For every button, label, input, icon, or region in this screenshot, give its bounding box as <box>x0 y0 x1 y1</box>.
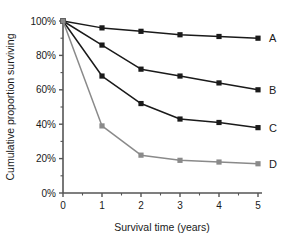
series-label-A: A <box>269 32 277 44</box>
series-line-A <box>63 21 258 38</box>
survival-curve-figure: 0%20%40%60%80%100% 012345 ABCD Survival … <box>0 0 291 242</box>
data-point-A-1 <box>99 25 104 30</box>
x-axis-tick-labels: 012345 <box>60 200 261 211</box>
y-tick-label: 0% <box>42 188 57 199</box>
series-D <box>60 18 260 166</box>
y-tick-label: 100% <box>30 16 56 27</box>
x-tick-label: 4 <box>216 200 222 211</box>
x-tick-label: 0 <box>60 200 66 211</box>
data-point-C-4 <box>216 120 221 125</box>
x-tick-label: 1 <box>99 200 105 211</box>
data-point-A-3 <box>177 32 182 37</box>
data-point-A-5 <box>255 36 260 41</box>
data-point-B-1 <box>99 42 104 47</box>
x-tick-label: 2 <box>138 200 144 211</box>
data-point-A-4 <box>216 34 221 39</box>
x-axis-title: Survival time (years) <box>114 221 210 233</box>
data-point-A-2 <box>138 29 143 34</box>
series-label-C: C <box>269 122 277 134</box>
series-label-group: ABCD <box>269 32 277 170</box>
series-label-D: D <box>269 158 277 170</box>
data-point-C-5 <box>255 125 260 130</box>
series-C <box>60 18 260 130</box>
data-point-B-5 <box>255 87 260 92</box>
x-tick-label: 3 <box>177 200 183 211</box>
y-tick-label: 40% <box>36 119 56 130</box>
series-label-B: B <box>269 84 276 96</box>
data-point-D-5 <box>255 161 260 166</box>
chart-canvas: 0%20%40%60%80%100% 012345 ABCD Survival … <box>0 0 291 242</box>
series-line-D <box>63 21 258 164</box>
data-point-D-4 <box>216 159 221 164</box>
data-point-B-3 <box>177 73 182 78</box>
data-point-D-1 <box>99 123 104 128</box>
data-point-B-2 <box>138 67 143 72</box>
data-point-D-2 <box>138 153 143 158</box>
y-axis-title: Cumulative proportion surviving <box>4 33 16 180</box>
data-series-group <box>60 18 260 166</box>
data-point-B-4 <box>216 80 221 85</box>
data-point-C-1 <box>99 73 104 78</box>
series-B <box>60 18 260 92</box>
series-line-B <box>63 21 258 90</box>
data-point-D-3 <box>177 158 182 163</box>
x-tick-label: 5 <box>255 200 261 211</box>
plot-axes <box>63 21 262 193</box>
data-point-C-3 <box>177 116 182 121</box>
y-axis-tick-labels: 0%20%40%60%80%100% <box>30 16 56 199</box>
data-point-C-2 <box>138 101 143 106</box>
y-tick-label: 20% <box>36 153 56 164</box>
y-tick-label: 80% <box>36 50 56 61</box>
data-point-D-0 <box>60 18 65 23</box>
y-tick-label: 60% <box>36 84 56 95</box>
